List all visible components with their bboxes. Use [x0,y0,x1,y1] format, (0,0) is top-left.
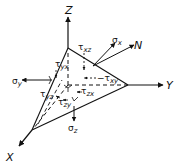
sigma-x-label: σx [112,35,123,47]
tau-zx-label: τzx [81,86,95,98]
tetrahedron-edges [32,48,128,130]
tetrahedron-stress-diagram: Z Y X N σx τxz −τxy τyx σy τyz τzx τzy σ… [0,0,178,166]
tau-zy-label: τzy [58,97,72,109]
tau-xz-label: τxz [78,42,92,54]
normal-label: N [134,39,142,52]
z-face-mark [72,97,78,101]
sigma-x-arrow [93,43,115,66]
x-axis [19,130,32,146]
tau-yz-label: τyz [40,89,54,101]
z-axis-label: Z [64,4,73,17]
tau-xy-label: −τxy [97,73,119,85]
normal-vector [93,45,134,66]
sigma-y-label: σy [12,76,23,88]
sigma-z-label: σz [68,123,78,135]
origin-mark [64,85,72,92]
y-axis-label: Y [166,79,174,92]
x-axis-label: X [5,151,14,164]
